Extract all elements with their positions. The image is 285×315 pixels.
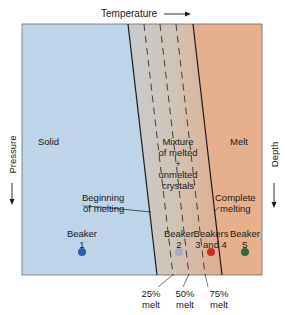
complete-melting-label: Complete melting: [215, 192, 256, 214]
temperature-label: Temperature: [101, 8, 157, 19]
beakers-3-4-label: Beakers 3 and 4: [190, 228, 232, 250]
beaker-1-label: Beaker 1: [64, 228, 100, 250]
melt-50-label: 50% melt: [170, 288, 200, 310]
arrow-right-icon: [185, 12, 191, 17]
beaker-5-label: Beaker 5: [227, 228, 263, 250]
melting-diagram: [0, 0, 285, 315]
mixture-label: Mixture of melted + unmelted crystals: [148, 136, 208, 191]
arrow-down-icon: [10, 199, 15, 205]
depth-label: Depth: [269, 133, 280, 177]
beginning-of-melting-label: Beginning of melting: [82, 192, 124, 214]
melt-75-label: 75% melt: [204, 288, 234, 310]
melt-label: Melt: [230, 136, 248, 147]
solid-label: Solid: [38, 136, 59, 147]
pressure-label: Pressure: [7, 130, 18, 180]
melt-25-label: 25% melt: [136, 288, 166, 310]
arrow-down-icon: [272, 202, 277, 208]
